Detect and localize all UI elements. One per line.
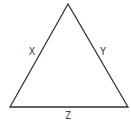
triangle-shape — [10, 4, 128, 107]
triangle-diagram: X Y Z — [0, 0, 131, 122]
side-label-x: X — [29, 46, 35, 57]
side-label-y: Y — [100, 46, 106, 57]
side-label-z: Z — [65, 110, 71, 121]
